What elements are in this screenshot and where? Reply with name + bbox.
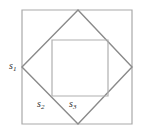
side-label-s2-subscript: 2 (41, 103, 45, 111)
figure-canvas (0, 0, 144, 135)
geometry-figure: s1 s2 s3 (0, 0, 144, 135)
side-label-s3: s3 (69, 99, 76, 109)
side-label-s2: s2 (37, 99, 44, 109)
side-label-s1: s1 (9, 61, 16, 71)
side-label-s3-subscript: 3 (73, 103, 77, 111)
side-label-s1-subscript: 1 (13, 65, 17, 73)
